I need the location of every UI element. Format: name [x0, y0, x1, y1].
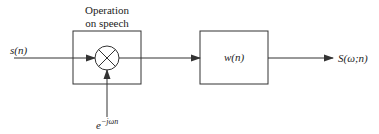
operation-title-line2: on speech — [85, 17, 129, 29]
input-label: s(n) — [10, 44, 27, 57]
modulator-label: e−jωn — [96, 117, 118, 131]
window-label: w(n) — [224, 51, 245, 64]
block-diagram: Operation on speech s(n) e−jωn w(n) S(ω;… — [0, 0, 379, 134]
modulator-exponent: −jωn — [101, 117, 118, 126]
output-label: S(ω;n) — [338, 52, 368, 65]
operation-title-line1: Operation — [85, 4, 129, 16]
multiplier-icon — [95, 46, 119, 70]
